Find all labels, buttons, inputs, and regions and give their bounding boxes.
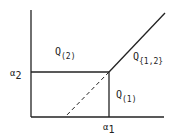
alpha1-label: α1 — [103, 122, 114, 135]
dashed-diagonal — [65, 72, 109, 117]
q12-label: Q{1,2} — [133, 51, 163, 66]
q1-label: Q(1) — [116, 89, 136, 104]
q2-label: Q(2) — [55, 46, 75, 61]
alpha2-label: α2 — [10, 68, 21, 81]
region-diagram: α2 α1 Q(2) Q{1,2} Q(1) — [0, 0, 174, 140]
